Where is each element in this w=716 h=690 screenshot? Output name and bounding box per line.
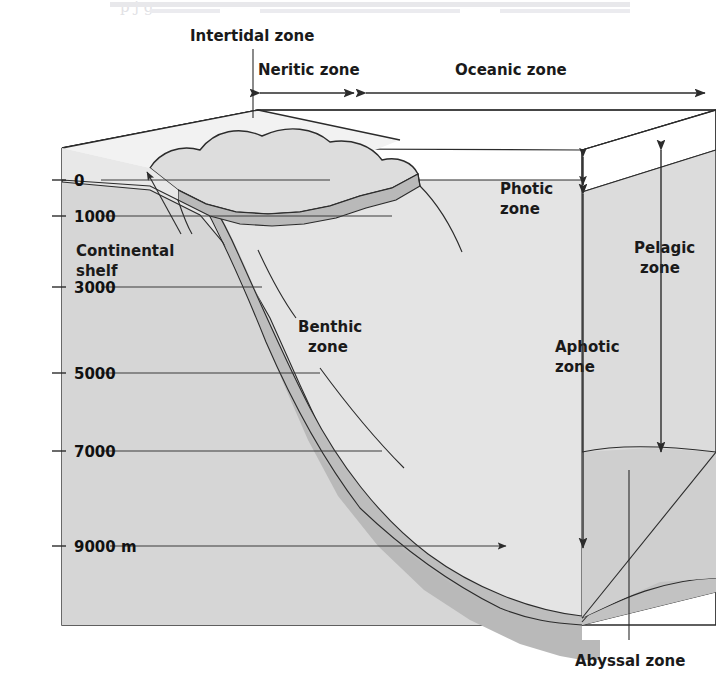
photic-zone-label-line1: Photic	[500, 180, 553, 198]
pelagic-zone-label-line1: Pelagic	[634, 239, 695, 257]
aphotic-zone-label-line2: zone	[555, 358, 595, 376]
pelagic-zone-label-line2: zone	[640, 259, 680, 277]
depth-label-5000: 5000	[74, 365, 116, 383]
top-cropped-text-fragment: p j g	[110, 0, 630, 16]
oceanic-zone-label: Oceanic zone	[455, 61, 567, 79]
depth-label-9000: 9000 m	[74, 538, 137, 556]
oceanic-zone-marker: Oceanic zone	[366, 61, 705, 93]
diagram-canvas: p j g	[0, 0, 716, 690]
neritic-zone-label: Neritic zone	[258, 61, 360, 79]
abyssal-zone-label: Abyssal zone	[575, 652, 685, 670]
depth-label-7000: 7000	[74, 443, 116, 461]
depth-label-1000: 1000	[74, 208, 116, 226]
photic-zone-label-line2: zone	[500, 200, 540, 218]
benthic-zone-label-line2: zone	[308, 338, 348, 356]
continental-shelf-label-line2: shelf	[76, 262, 118, 280]
aphotic-zone-label-line1: Aphotic	[555, 338, 620, 356]
neritic-zone-marker: Neritic zone	[258, 61, 360, 93]
depth-label-0: 0	[74, 172, 84, 190]
ocean-zones-diagram: p j g	[0, 0, 716, 690]
benthic-zone-label-line1: Benthic	[298, 318, 362, 336]
depth-label-3000: 3000	[74, 279, 116, 297]
continental-shelf-label-line1: Continental	[76, 242, 174, 260]
intertidal-zone-label: Intertidal zone	[190, 27, 314, 45]
